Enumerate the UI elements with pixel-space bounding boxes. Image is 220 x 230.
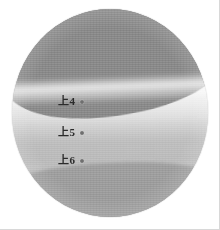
annotation-marker: 上6: [58, 155, 84, 166]
dot-marker-icon: [80, 131, 84, 135]
annotation-marker: 上4: [58, 96, 84, 107]
frame-border-right: [219, 0, 220, 230]
dot-marker-icon: [80, 159, 84, 163]
annotation-marker: 上5: [58, 127, 84, 138]
annotation-label: 上6: [58, 155, 75, 166]
frame-border-bottom: [0, 229, 220, 230]
dot-marker-icon: [80, 100, 84, 104]
annotation-label: 上5: [58, 127, 75, 138]
circular-scan-disc: [12, 9, 208, 217]
annotation-label: 上4: [58, 96, 75, 107]
mid-gray-band: [12, 115, 208, 165]
figure-root: 上4 上5 上6: [0, 0, 220, 230]
